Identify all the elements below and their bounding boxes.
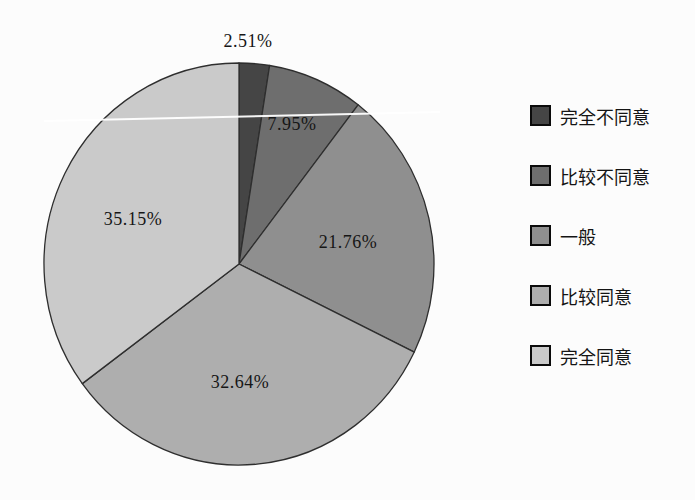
legend-label: 完全不同意 [560, 103, 650, 129]
legend-label: 比较不同意 [560, 163, 650, 189]
legend-item: 比较不同意 [530, 165, 650, 186]
slice-value-label: 7.95% [268, 114, 317, 135]
slice-value-label: 32.64% [211, 372, 270, 393]
legend-label: 一般 [560, 223, 596, 249]
legend-item: 完全不同意 [530, 105, 650, 126]
legend-swatch [530, 225, 551, 246]
slice-value-label: 2.51% [224, 31, 273, 52]
slice-value-label: 21.76% [319, 232, 378, 253]
legend: 完全不同意 比较不同意 一般 比较同意 完全同意 [530, 105, 650, 366]
legend-swatch [530, 345, 551, 366]
legend-swatch [530, 165, 551, 186]
legend-item: 完全同意 [530, 345, 650, 366]
pie-chart-figure: 2.51% 7.95% 21.76% 32.64% 35.15% 完全不同意 比… [0, 0, 695, 500]
legend-item: 比较同意 [530, 285, 650, 306]
legend-swatch [530, 285, 551, 306]
slice-value-label: 35.15% [104, 209, 163, 230]
legend-label: 完全同意 [560, 343, 632, 369]
legend-swatch [530, 105, 551, 126]
legend-item: 一般 [530, 225, 650, 246]
legend-label: 比较同意 [560, 283, 632, 309]
